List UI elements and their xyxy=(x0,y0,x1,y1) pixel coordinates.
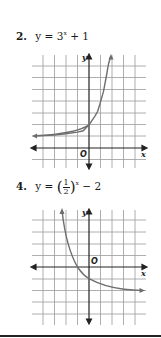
curve-arrow-right xyxy=(140,288,146,293)
graph-exponential-decay: y x O xyxy=(0,200,161,335)
axes xyxy=(31,54,147,169)
origin-label: O xyxy=(80,150,87,159)
curve-arrow-up xyxy=(109,54,114,60)
fraction-denominator: 2 xyxy=(63,188,70,196)
origin-label: O xyxy=(91,257,98,266)
x-axis-label: x xyxy=(140,268,146,278)
curve-arrow-left xyxy=(32,133,37,138)
curve-arrow-up xyxy=(60,208,65,214)
x-axis-label: x xyxy=(140,149,146,159)
fraction: 12 xyxy=(63,179,70,196)
equation-lhs: y = xyxy=(35,180,53,192)
curve-3x-plus-1 xyxy=(35,57,111,136)
graph-exponential-growth: y x O xyxy=(0,0,161,175)
page-bottom-rule xyxy=(0,335,161,337)
problem-number: 4. xyxy=(16,180,27,192)
problem-4-label: 4. y = (12)x − 2 xyxy=(16,178,101,196)
axes xyxy=(31,209,147,324)
equation-tail: − 2 xyxy=(82,180,101,192)
equation-exponent: x xyxy=(76,179,79,186)
